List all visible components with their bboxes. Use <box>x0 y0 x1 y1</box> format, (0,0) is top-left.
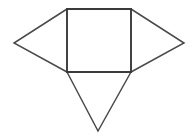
geometric-figure-canvas <box>0 0 194 138</box>
figure-background <box>0 0 194 138</box>
